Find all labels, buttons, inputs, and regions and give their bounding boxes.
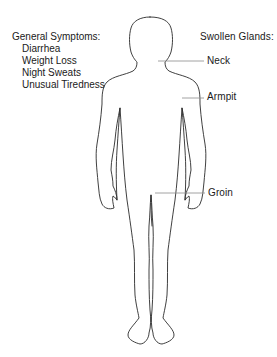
symptom-item: Night Sweats — [22, 67, 105, 79]
right-inner-arm — [182, 108, 186, 200]
general-symptoms-block: General Symptoms: Diarrhea Weight Loss N… — [12, 31, 105, 91]
general-symptoms-heading: General Symptoms: — [12, 31, 105, 43]
left-inner-arm — [116, 108, 120, 200]
leader-lines — [155, 61, 205, 193]
general-symptoms-list: Diarrhea Weight Loss Night Sweats Unusua… — [12, 43, 105, 91]
body-outline — [96, 17, 206, 344]
gland-label-neck: Neck — [207, 55, 230, 67]
body-silhouette — [96, 17, 206, 344]
symptom-item: Unusual Tiredness — [22, 79, 105, 91]
symptom-item: Diarrhea — [22, 43, 105, 55]
swollen-glands-heading: Swollen Glands: — [200, 31, 274, 43]
gland-label-groin: Groin — [208, 187, 233, 199]
symptom-item: Weight Loss — [22, 55, 105, 67]
gland-label-armpit: Armpit — [207, 91, 237, 103]
